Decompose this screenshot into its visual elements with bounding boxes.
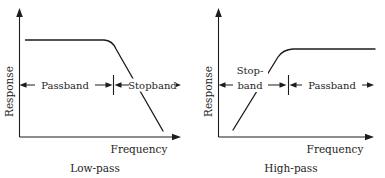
- stopband-label-line1-high-pass: Stop-: [237, 65, 264, 76]
- chart-high-pass: Stop- band Passband Response Frequency H…: [192, 0, 385, 178]
- stopband-span-arrow-high-pass: Stop- band: [219, 62, 287, 92]
- passband-label-high-pass: Passband: [308, 80, 356, 91]
- caption-low-pass: Low-pass: [70, 162, 120, 174]
- x-axis-label-low-pass: Frequency: [111, 143, 168, 155]
- x-axis-low-pass: [20, 134, 182, 141]
- passband-span-arrow-high-pass: Passband: [290, 79, 375, 92]
- filter-response-figure: Passband Stopband Response Frequency Low…: [0, 0, 385, 178]
- y-axis-label-high-pass: Response: [202, 66, 214, 117]
- y-axis-low-pass: [16, 8, 23, 137]
- caption-high-pass: High-pass: [264, 162, 317, 174]
- y-axis-high-pass: [215, 8, 222, 137]
- passband-label-low-pass: Passband: [41, 80, 89, 91]
- x-axis-label-high-pass: Frequency: [307, 143, 364, 155]
- chart-low-pass: Passband Stopband Response Frequency Low…: [0, 0, 193, 178]
- x-axis-high-pass: [219, 134, 375, 141]
- stopband-label-low-pass: Stopband: [128, 80, 177, 91]
- stopband-span-arrow-low-pass: Stopband: [115, 79, 182, 92]
- stopband-label-line2-high-pass: band: [237, 80, 263, 91]
- y-axis-label-low-pass: Response: [3, 66, 15, 117]
- passband-span-arrow-low-pass: Passband: [20, 79, 113, 92]
